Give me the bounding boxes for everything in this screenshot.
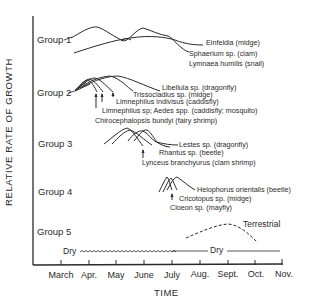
species-label: Chirocephalopsis bundyi (fairy shrimp) xyxy=(95,117,217,124)
y-axis-label: RELATIVE RATE OF GROWTH xyxy=(3,58,14,206)
species-label: Rhantus sp. (beetle) xyxy=(159,149,224,156)
group3-arrowhead xyxy=(142,149,145,153)
group-5-label: Group 5 xyxy=(37,227,71,237)
group-2-label: Group 2 xyxy=(37,88,71,98)
x-axis-label: TIME xyxy=(154,288,179,298)
month-label: March xyxy=(48,271,73,280)
species-label: Lymnaea humilis (snail) xyxy=(189,60,264,67)
month-label: Oct. xyxy=(248,270,265,279)
x-axis xyxy=(33,264,283,265)
group4-arrowhead xyxy=(171,193,174,197)
month-label: Aug. xyxy=(191,270,210,279)
species-label: Cloeon sp. (mayfly) xyxy=(170,204,232,211)
month-label: July xyxy=(164,271,180,280)
species-label: Cricotopus sp. (midge) xyxy=(179,195,251,202)
species-label: Sphaerium sp. (clam) xyxy=(189,50,257,57)
group-3-label: Group 3 xyxy=(38,139,72,149)
species-label: Helophorus orientalis (beetle) xyxy=(197,186,291,193)
month-label: May xyxy=(107,271,124,280)
month-label: June xyxy=(134,271,154,280)
dry-label-2: Dry xyxy=(210,246,223,255)
species-label: Limnephilus sp; Aedes spp. (caddisfly; m… xyxy=(102,107,257,114)
species-label: Einfeldia (midge) xyxy=(206,39,260,46)
group-1-label: Group 1 xyxy=(37,35,71,45)
group2-arrowheads xyxy=(95,92,115,97)
terrestrial-label: Terrestrial xyxy=(243,220,280,229)
dry-label-1: Dry xyxy=(63,247,76,256)
diagram-canvas xyxy=(0,0,313,308)
group1-curves xyxy=(71,27,203,53)
species-label: Lynceus branchyurus (clam shrimp) xyxy=(142,159,256,166)
month-label: Sept. xyxy=(217,270,238,279)
month-label: Apr. xyxy=(81,271,97,280)
month-label: Nov. xyxy=(275,270,293,279)
species-label: Limnephilus indivisus (caddisfly) xyxy=(116,98,219,105)
group-4-label: Group 4 xyxy=(38,187,72,197)
dry-wavy-line xyxy=(80,251,176,253)
